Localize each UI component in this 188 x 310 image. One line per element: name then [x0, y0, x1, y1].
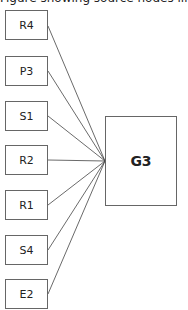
edge-e2-g3 — [48, 161, 105, 294]
edge-r2-g3 — [48, 160, 105, 161]
node-label: S4 — [20, 244, 34, 257]
node-p3: P3 — [5, 56, 48, 86]
node-r4: R4 — [5, 10, 48, 40]
edge-r1-g3 — [48, 161, 105, 205]
edge-s4-g3 — [48, 161, 105, 250]
node-r2: R2 — [5, 145, 48, 175]
edge-p3-g3 — [48, 71, 105, 161]
node-label: P3 — [20, 65, 34, 78]
edge-s1-g3 — [48, 116, 105, 161]
node-label: S1 — [20, 110, 34, 123]
node-label: R4 — [19, 19, 34, 32]
node-label: E2 — [20, 288, 34, 301]
node-s4: S4 — [5, 235, 48, 265]
node-g3-target: G3 — [105, 116, 177, 206]
node-r1: R1 — [5, 190, 48, 220]
node-s1: S1 — [5, 101, 48, 131]
node-e2: E2 — [5, 279, 48, 309]
target-label: G3 — [130, 153, 151, 169]
node-label: R2 — [19, 154, 34, 167]
node-label: R1 — [19, 199, 34, 212]
edge-r4-g3 — [48, 26, 105, 161]
